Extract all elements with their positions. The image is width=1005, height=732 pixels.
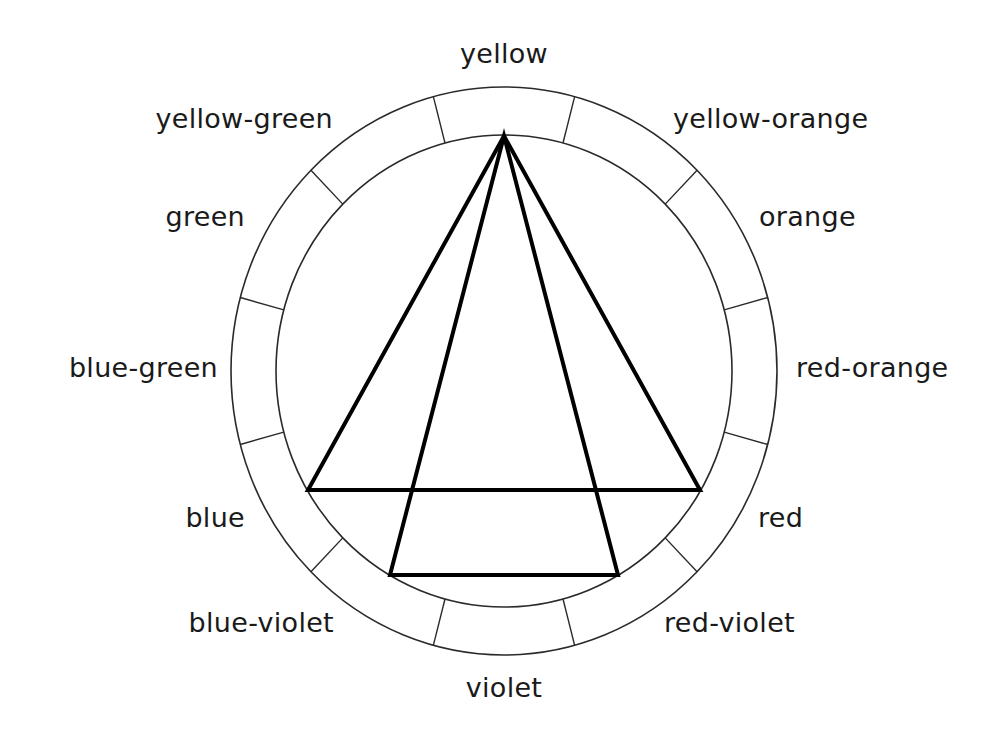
segment-divider [311,170,343,204]
segment-dividers [240,97,767,646]
label-blue-violet: blue-violet [189,607,334,638]
label-blue: blue [185,502,245,533]
segment-divider [311,538,343,572]
label-red: red [758,502,803,533]
segment-divider [563,97,575,143]
segment-divider [433,97,445,143]
segment-divider [433,599,445,645]
outer-triangle-yellow-blue-red [308,136,700,490]
segment-divider [563,599,575,645]
harmony-triangles [308,136,700,575]
label-yellow: yellow [460,38,548,69]
label-red-violet: red-violet [664,607,795,638]
label-green: green [166,201,245,232]
segment-divider [665,170,697,204]
segment-divider [724,297,767,309]
label-yellow-orange: yellow-orange [673,103,868,134]
label-orange: orange [759,201,856,232]
label-blue-green: blue-green [69,352,218,383]
inner-triangle-yellow-blueviolet-redviolet [390,136,618,575]
color-labels: yellow yellow-orange orange red-orange r… [69,38,949,703]
segment-divider [240,432,283,444]
color-wheel-diagram: yellow yellow-orange orange red-orange r… [0,0,1005,732]
inner-ring-circle [276,135,732,607]
label-yellow-green: yellow-green [155,103,333,134]
label-red-orange: red-orange [796,352,949,383]
color-wheel-ring [231,87,777,655]
segment-divider [724,432,767,444]
segment-divider [240,297,283,309]
segment-divider [665,538,697,572]
label-violet: violet [466,672,543,703]
